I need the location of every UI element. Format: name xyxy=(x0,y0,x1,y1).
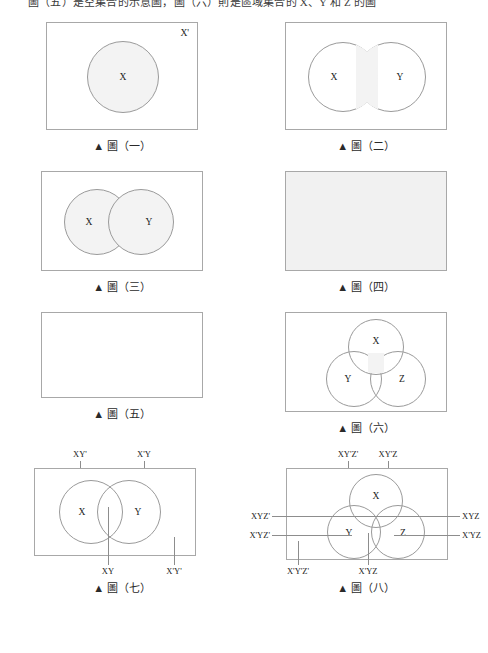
fig8-caption: ▲ 圖（八） xyxy=(337,579,395,595)
fig5-caption-text: ▲ 圖（五） xyxy=(93,405,151,421)
fig6-label-x: X xyxy=(373,336,380,346)
fig6-label-z: Z xyxy=(399,374,405,384)
fig3-circle-y xyxy=(108,189,174,255)
fig8-circle-z xyxy=(371,505,425,559)
fig8-leader-line-left-upper xyxy=(272,516,374,517)
figure-row-4: XY' X'Y X Y XY X'Y' xyxy=(0,449,488,595)
fig8-leader-line-right-lower xyxy=(394,535,460,536)
fig1-caption-text: ▲ 圖（一） xyxy=(93,137,151,153)
cut-off-header-text: 圖（五）是空集合的示意圖，圖（六）則是區域集合的 X、Y 和 Z 的圖 xyxy=(28,0,468,8)
fig8-tag-bottom-center: X'YZ xyxy=(358,566,377,576)
fig1-caption: ▲ 圖（一） xyxy=(93,137,151,153)
fig8-tag-right-lower: X'YZ xyxy=(462,530,481,540)
fig8-caption-text: ▲ 圖（八） xyxy=(337,579,395,595)
fig2-label-y: Y xyxy=(397,72,404,82)
figure-grid: X X' ▲ 圖（一） xyxy=(0,22,488,595)
fig2-caption: ▲ 圖（二） xyxy=(337,137,395,153)
figure-row-1: X X' ▲ 圖（一） xyxy=(0,22,488,153)
figure-3: X Y ▲ 圖（三） xyxy=(0,171,244,294)
fig8-leader-line-left-lower xyxy=(272,535,352,536)
fig1-label-x: X xyxy=(120,72,127,82)
fig7-tag-x-prime-y: X'Y xyxy=(137,449,151,459)
fig7-tag-x-prime-y-prime: X'Y' xyxy=(166,566,181,576)
fig7-leader-line-bottom-right xyxy=(174,537,175,565)
fig8-leader-area: XY'Z' XY'Z X Y Z xyxy=(246,449,486,577)
figure-1: X X' ▲ 圖（一） xyxy=(0,22,244,153)
fig7-leader-area: XY' X'Y X Y XY X'Y' xyxy=(22,449,222,577)
fig8-label-x: X xyxy=(373,491,380,501)
figure-cell-2: X Y ▲ 圖（二） xyxy=(244,22,488,153)
fig4-caption: ▲ 圖（四） xyxy=(337,278,395,294)
fig3-caption-text: ▲ 圖（三） xyxy=(93,278,151,294)
fig3-universe-rect: X Y xyxy=(41,171,203,271)
fig6-label-y: Y xyxy=(345,374,352,384)
fig8-tag-top-left: XY'Z' xyxy=(338,449,359,459)
worksheet-page: 圖（五）是空集合的示意圖，圖（六）則是區域集合的 X、Y 和 Z 的圖 X X'… xyxy=(0,0,488,653)
fig8-label-z: Z xyxy=(400,528,406,538)
fig8-leader-line-bottom-left xyxy=(298,541,299,565)
figure-cell-1: X X' ▲ 圖（一） xyxy=(0,22,244,153)
figure-4: ▲ 圖（四） xyxy=(244,171,488,294)
figure-cell-3: X Y ▲ 圖（三） xyxy=(0,171,244,294)
fig8-tag-left-lower: X'YZ' xyxy=(249,530,270,540)
fig8-universe-rect: X Y Z xyxy=(286,468,448,560)
figure-cell-8: XY'Z' XY'Z X Y Z xyxy=(244,449,488,595)
figure-5: ▲ 圖（五） xyxy=(0,312,244,421)
fig4-universe-rect-filled xyxy=(285,171,447,271)
figure-cell-4: ▲ 圖（四） xyxy=(244,171,488,294)
figure-2: X Y ▲ 圖（二） xyxy=(244,22,488,153)
fig8-tag-left-upper: XYZ' xyxy=(251,511,270,521)
figure-row-3: ▲ 圖（五） X Y Z xyxy=(0,312,488,435)
fig7-tag-xy: XY xyxy=(102,566,114,576)
figure-6: X Y Z ▲ 圖（六） xyxy=(244,312,488,435)
fig6-caption: ▲ 圖（六） xyxy=(337,419,395,435)
fig1-universe-rect: X X' xyxy=(46,22,198,130)
fig7-circle-y xyxy=(97,480,161,544)
figure-row-2: X Y ▲ 圖（三） ▲ 圖（四） xyxy=(0,171,488,294)
fig1-label-x-complement: X' xyxy=(180,28,189,38)
fig6-caption-text: ▲ 圖（六） xyxy=(337,419,395,435)
fig8-tag-right-upper: XYZ xyxy=(462,511,479,521)
figure-8: XY'Z' XY'Z X Y Z xyxy=(244,449,488,595)
fig7-caption: ▲ 圖（七） xyxy=(93,579,151,595)
fig2-caption-text: ▲ 圖（二） xyxy=(337,137,395,153)
fig7-label-x: X xyxy=(79,507,86,517)
fig7-leader-line-bottom-center xyxy=(108,507,109,565)
fig8-leader-line-bottom-center xyxy=(368,533,369,565)
fig8-tag-bottom-left: X'Y'Z' xyxy=(287,566,309,576)
fig3-label-y: Y xyxy=(146,217,153,227)
figure-cell-7: XY' X'Y X Y XY X'Y' xyxy=(0,449,244,595)
figure-cell-6: X Y Z ▲ 圖（六） xyxy=(244,312,488,435)
fig5-caption: ▲ 圖（五） xyxy=(93,405,151,421)
fig7-caption-text: ▲ 圖（七） xyxy=(93,579,151,595)
fig6-universe-rect: X Y Z xyxy=(285,312,447,412)
fig7-tag-xy-prime: XY' xyxy=(73,449,87,459)
figure-cell-5: ▲ 圖（五） xyxy=(0,312,244,435)
fig5-universe-rect-empty xyxy=(41,312,203,398)
fig8-leader-line-right-upper xyxy=(374,516,460,517)
fig3-caption: ▲ 圖（三） xyxy=(93,278,151,294)
figure-7: XY' X'Y X Y XY X'Y' xyxy=(0,449,244,595)
fig4-caption-text: ▲ 圖（四） xyxy=(337,278,395,294)
fig3-label-x: X xyxy=(86,217,93,227)
fig2-universe-rect: X Y xyxy=(285,22,447,130)
fig8-label-y: Y xyxy=(346,528,353,538)
fig6-circle-z xyxy=(370,351,426,407)
fig7-universe-rect: X Y xyxy=(34,468,196,556)
fig8-tag-top-right: XY'Z xyxy=(378,449,397,459)
fig2-circle-y xyxy=(356,42,426,112)
fig7-label-y: Y xyxy=(135,507,142,517)
fig2-label-x: X xyxy=(331,72,338,82)
